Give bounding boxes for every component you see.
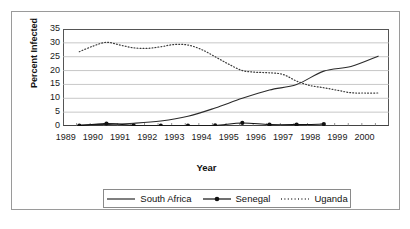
x-tick-label: 1997 bbox=[273, 132, 293, 142]
y-tick-label: 15 bbox=[50, 79, 60, 88]
x-tick-label: 1990 bbox=[83, 132, 103, 142]
dotted-line-key bbox=[280, 194, 310, 204]
line-marker-key bbox=[202, 194, 232, 204]
y-tick-label: 35 bbox=[50, 24, 60, 33]
series-uganda bbox=[79, 42, 378, 93]
y-tick-label: 25 bbox=[50, 52, 60, 61]
legend-label: Senegal bbox=[236, 194, 271, 204]
x-axis-title: Year bbox=[12, 162, 401, 173]
legend-item-south-africa[interactable]: South Africa bbox=[106, 194, 191, 204]
data-point-marker bbox=[267, 123, 271, 126]
y-tick-label: 20 bbox=[50, 66, 60, 75]
data-point-marker bbox=[322, 122, 326, 126]
x-tick-label: 1991 bbox=[110, 132, 130, 142]
legend-item-senegal[interactable]: Senegal bbox=[202, 194, 271, 204]
series-south-africa bbox=[79, 56, 378, 125]
x-tick-label: 1996 bbox=[246, 132, 266, 142]
legend-label: South Africa bbox=[140, 194, 191, 204]
series-senegal bbox=[77, 121, 326, 126]
data-point-marker bbox=[213, 123, 217, 126]
x-tick-label: 2000 bbox=[355, 132, 375, 142]
x-tick-label: 1995 bbox=[219, 132, 239, 142]
chart-figure: 05101520253035 Percent Infected 19891990… bbox=[11, 11, 400, 210]
x-tick-label: 1992 bbox=[137, 132, 157, 142]
legend-item-uganda[interactable]: Uganda bbox=[280, 194, 347, 204]
y-tick-label: 5 bbox=[55, 107, 60, 116]
y-tick-label: 0 bbox=[55, 121, 60, 130]
solid-line-key bbox=[106, 194, 136, 204]
x-tick-label: 1998 bbox=[300, 132, 320, 142]
x-tick-label: 1999 bbox=[327, 132, 347, 142]
data-point-marker bbox=[77, 124, 81, 126]
y-tick-label: 10 bbox=[50, 93, 60, 102]
chart-legend: South AfricaSenegalUganda bbox=[103, 189, 351, 208]
legend-label: Uganda bbox=[314, 194, 347, 204]
y-tick-label: 30 bbox=[50, 38, 60, 47]
data-point-marker bbox=[295, 123, 299, 126]
data-point-marker bbox=[159, 124, 163, 126]
y-axis-title: Percent Infected bbox=[29, 5, 39, 101]
x-axis-tick-labels: 1989199019911992199319941995199619971998… bbox=[63, 132, 389, 146]
data-point-marker bbox=[240, 121, 244, 125]
x-tick-label: 1993 bbox=[164, 132, 184, 142]
data-series-layer bbox=[63, 29, 389, 126]
x-tick-label: 1994 bbox=[192, 132, 212, 142]
data-point-marker bbox=[104, 121, 108, 125]
plot-area bbox=[63, 29, 389, 126]
data-point-marker bbox=[186, 124, 190, 126]
x-tick-label: 1989 bbox=[56, 132, 76, 142]
